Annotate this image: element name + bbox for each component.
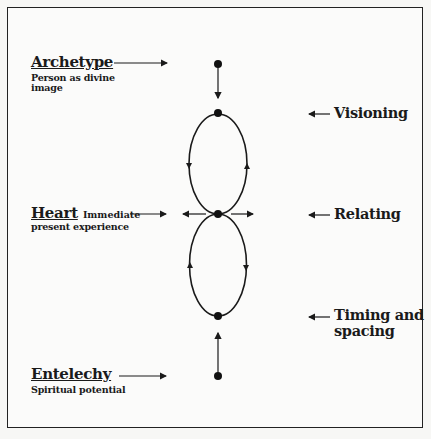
archetype-subtitle-2: image (31, 83, 115, 93)
archetype-label: Archetype Person as divine image (31, 54, 115, 93)
timing-line-2: spacing (334, 323, 424, 339)
timing-spacing-label: Timing and spacing (334, 307, 424, 339)
relating-label: Relating (334, 206, 401, 222)
lower-loop-bottom-node (214, 312, 222, 320)
upper-right-up-arrow-icon (244, 163, 250, 169)
heart-label: Heart Immediate present experience (31, 204, 140, 232)
entelechy-subtitle: Spiritual potential (31, 385, 125, 395)
upper-left-down-arrow-icon (186, 163, 192, 169)
visioning-label: Visioning (334, 105, 408, 121)
archetype-node (214, 60, 222, 68)
upper-loop-top-node (214, 109, 222, 117)
upper-loop (189, 114, 247, 214)
lower-left-up-arrow-icon (187, 262, 193, 268)
heart-title: Heart (31, 204, 78, 222)
entelechy-title: Entelechy (31, 366, 125, 383)
heart-center-node (214, 210, 222, 218)
lower-loop (190, 214, 247, 316)
entelechy-node (214, 372, 222, 380)
archetype-title: Archetype (31, 54, 115, 71)
entelechy-label: Entelechy Spiritual potential (31, 366, 125, 395)
lower-right-down-arrow-icon (243, 265, 249, 271)
timing-line-1: Timing and (334, 307, 424, 323)
heart-subtitle-2: present experience (31, 222, 140, 232)
heart-subtitle-1: Immediate (83, 209, 140, 220)
